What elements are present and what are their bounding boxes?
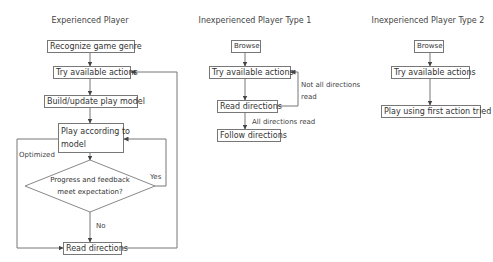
node-play-model-line1: Play according to [61,125,121,138]
edge-label-not-all-read: Not all directions read [301,80,360,103]
node-try-actions: Try available actions [53,66,131,79]
node-try-actions-2: Try available actions [391,66,470,79]
node-browse-2: Browse [414,40,444,53]
decision-node: Progress and feedback meet expectation? [50,174,130,198]
column-title-experienced: Experienced Player [51,16,128,25]
node-browse-1: Browse [231,40,261,53]
edge-label-no: No [96,221,106,232]
node-play-model: Play according to model [58,123,124,153]
decision-line1: Progress and feedback [50,174,130,186]
edge-label-not-all-line1: Not all directions [301,80,360,91]
edge-label-yes: Yes [150,172,161,183]
node-build-model: Build/update play model [44,95,138,108]
edge-label-all-read: All directions read [252,117,315,128]
column-title-inexperienced-1: Inexperienced Player Type 1 [199,16,312,25]
edge-label-not-all-line2: read [301,92,360,103]
node-try-actions-1: Try available actions [209,66,291,79]
edge-label-optimized: Optimized [19,150,55,161]
node-recognize-genre: Recognize game genre [47,40,135,53]
node-read-directions-1: Read directions [217,100,278,113]
decision-line2: meet expectation? [50,186,130,198]
node-play-first-action: Play using first action tried [381,105,481,118]
node-read-directions: Read directions [63,242,122,255]
node-follow-directions-1: Follow directions [217,129,281,142]
column-title-inexperienced-2: Inexperienced Player Type 2 [372,16,485,25]
node-play-model-line2: model [61,138,121,151]
